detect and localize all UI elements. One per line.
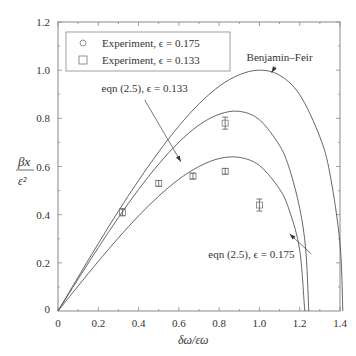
x-axis-label: δω/εω <box>178 333 209 347</box>
curve-series-0 <box>58 70 343 311</box>
annotation-arrowhead-0 <box>272 66 277 72</box>
y-tick-label: 0 <box>45 303 51 315</box>
y-label-numerator: βx <box>17 154 30 169</box>
x-tick-label: 0.4 <box>132 317 146 329</box>
curve-series-2 <box>58 157 305 311</box>
y-tick-label: 0.8 <box>36 112 50 124</box>
y-label-denominator: ε² <box>18 174 27 188</box>
annotation-label-2: eqn (2.5), ϵ = 0.175 <box>208 248 295 261</box>
x-tick-label: 1.0 <box>253 317 267 329</box>
legend-label-0: Experiment, ϵ = 0.175 <box>102 37 200 49</box>
annotation-label-0: Benjamin–Feir <box>247 51 313 63</box>
y-tick-label: 0.2 <box>36 257 50 269</box>
x-tick-label: 0.6 <box>172 317 186 329</box>
legend: Experiment, ϵ = 0.175 Experiment, ϵ = 0.… <box>66 32 230 71</box>
y-tick-label: 0.6 <box>36 161 50 173</box>
chart: 00.20.40.60.81.01.21.400.20.40.60.81.01.… <box>0 0 356 356</box>
x-tick-label: 1.2 <box>293 317 307 329</box>
annotation-arrowhead-1 <box>176 155 181 161</box>
y-tick-label: 1.0 <box>36 64 50 76</box>
x-tick-label: 1.4 <box>333 317 347 329</box>
data-points <box>119 117 262 216</box>
y-axis-label: βx ε² <box>16 154 34 188</box>
x-tick-label: 0.2 <box>91 317 105 329</box>
x-tick-label: 0.8 <box>212 317 226 329</box>
curves <box>58 70 343 311</box>
annotation-label-1: eqn (2.5), ϵ = 0.133 <box>102 82 189 95</box>
annotations: Benjamin–Feireqn (2.5), ϵ = 0.133eqn (2.… <box>102 51 313 261</box>
legend-label-1: Experiment, ϵ = 0.133 <box>102 54 200 66</box>
x-tick-label: 0 <box>55 317 61 329</box>
y-tick-label: 1.2 <box>36 16 50 28</box>
y-tick-label: 0.4 <box>36 209 50 221</box>
curve-series-1 <box>58 111 309 311</box>
